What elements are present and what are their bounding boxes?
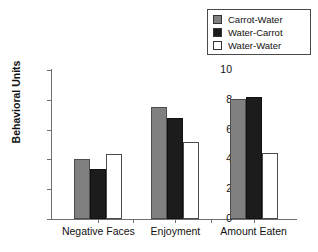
x-category-label: Negative Faces — [62, 225, 135, 237]
y-tick-mark — [47, 219, 51, 220]
legend-label-carrot-water: Carrot-Water — [228, 13, 283, 26]
x-tick-mark — [175, 219, 176, 223]
bar-chart-figure: Carrot-Water Water-Carrot Water-Water Be… — [0, 0, 318, 252]
y-tick-mark — [47, 159, 51, 160]
legend-item-water-carrot: Water-Carrot — [213, 26, 306, 39]
y-tick-label: 10 — [210, 63, 232, 75]
plot-area: 0246810 — [51, 70, 288, 219]
legend-label-water-water: Water-Water — [228, 39, 281, 52]
bar-water-water-amount-eaten — [262, 153, 278, 219]
bar-water-carrot-enjoyment — [167, 118, 183, 219]
bar-water-carrot-amount-eaten — [246, 97, 262, 219]
bar-carrot-water-negative-faces — [74, 159, 90, 219]
legend-item-water-water: Water-Water — [213, 39, 306, 52]
y-tick-mark — [47, 70, 51, 71]
legend-label-water-carrot: Water-Carrot — [228, 26, 283, 39]
y-axis-title: Behavioral Units — [10, 42, 22, 162]
bar-carrot-water-enjoyment — [151, 107, 167, 219]
x-tick-mark-minor — [211, 219, 212, 223]
x-tick-mark — [98, 219, 99, 223]
x-axis-line — [51, 219, 297, 220]
bar-water-water-negative-faces — [106, 154, 122, 219]
y-tick-mark — [47, 189, 51, 190]
x-tick-mark — [254, 219, 255, 223]
legend-swatch-carrot-water — [213, 15, 222, 24]
legend-swatch-water-water — [213, 41, 222, 50]
chart-legend: Carrot-Water Water-Carrot Water-Water — [207, 9, 311, 55]
y-tick-mark — [47, 130, 51, 131]
legend-swatch-water-carrot — [213, 28, 222, 37]
bar-carrot-water-amount-eaten — [230, 99, 246, 219]
y-tick-mark — [47, 100, 51, 101]
x-category-label: Amount Eaten — [220, 225, 287, 237]
bar-water-carrot-negative-faces — [90, 169, 106, 219]
x-category-label: Enjoyment — [151, 225, 201, 237]
bar-water-water-enjoyment — [183, 142, 199, 219]
legend-item-carrot-water: Carrot-Water — [213, 13, 306, 26]
x-tick-mark-minor — [133, 219, 134, 223]
